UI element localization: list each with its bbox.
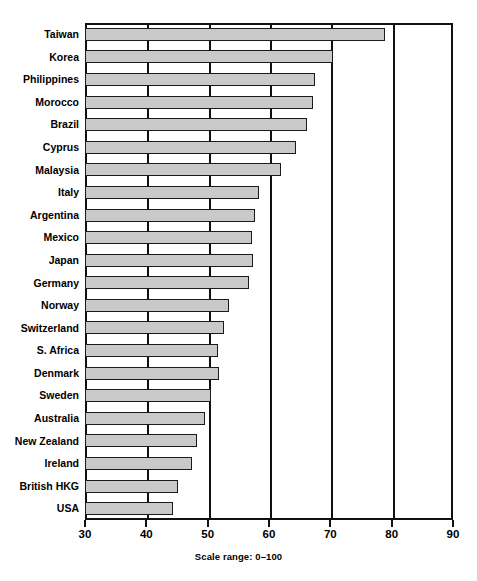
bar-row (85, 68, 453, 91)
bar[interactable] (85, 118, 307, 131)
y-axis-label: Germany (0, 272, 79, 295)
y-axis-label: Malaysia (0, 159, 79, 182)
y-axis-label: Cyprus (0, 136, 79, 159)
bar[interactable] (85, 50, 333, 63)
bar[interactable] (85, 73, 315, 86)
bar-chart: TaiwanKoreaPhilippinesMoroccoBrazilCypru… (0, 0, 477, 581)
bar-row (85, 317, 453, 340)
y-axis-label: Sweden (0, 384, 79, 407)
x-axis-tick-label: 60 (263, 528, 276, 540)
bar-row (85, 497, 453, 520)
y-axis-label: USA (0, 497, 79, 520)
bar-row (85, 407, 453, 430)
y-axis-label: Brazil (0, 113, 79, 136)
x-axis-tick (84, 520, 86, 527)
x-axis-tick-label: 50 (201, 528, 214, 540)
y-axis-label: New Zealand (0, 430, 79, 453)
bar[interactable] (85, 434, 197, 447)
y-axis-label: Korea (0, 46, 79, 69)
bar[interactable] (85, 321, 224, 334)
bar-row (85, 384, 453, 407)
bar-row (85, 339, 453, 362)
bar-row (85, 46, 453, 69)
bar[interactable] (85, 299, 229, 312)
y-axis-label: Norway (0, 294, 79, 317)
x-axis-tick-label: 80 (385, 528, 398, 540)
bar-row (85, 181, 453, 204)
bar-series (85, 23, 453, 520)
y-axis-label: British HKG (0, 475, 79, 498)
x-axis-tick-label: 90 (447, 528, 460, 540)
bar[interactable] (85, 209, 255, 222)
bar-row (85, 204, 453, 227)
bar[interactable] (85, 96, 313, 109)
x-axis-tick-label: 30 (79, 528, 92, 540)
x-axis-tick (329, 520, 331, 527)
bar-row (85, 226, 453, 249)
bar[interactable] (85, 163, 281, 176)
bar-row (85, 91, 453, 114)
bar-row (85, 452, 453, 475)
y-axis-label: Mexico (0, 226, 79, 249)
x-axis-tick (145, 520, 147, 527)
bar[interactable] (85, 502, 173, 515)
y-axis-label: Philippines (0, 68, 79, 91)
y-axis-label: Australia (0, 407, 79, 430)
bar-row (85, 272, 453, 295)
y-axis-label: Denmark (0, 362, 79, 385)
bar[interactable] (85, 367, 219, 380)
x-axis-tick (268, 520, 270, 527)
y-axis-label: Japan (0, 249, 79, 272)
bar[interactable] (85, 480, 178, 493)
y-axis-category-labels: TaiwanKoreaPhilippinesMoroccoBrazilCypru… (0, 23, 79, 520)
bar[interactable] (85, 254, 253, 267)
bar-row (85, 430, 453, 453)
scale-caption: Scale range: 0–100 (0, 551, 477, 562)
bar-row (85, 249, 453, 272)
bar-row (85, 159, 453, 182)
x-axis-tick-label: 70 (324, 528, 337, 540)
y-axis-label: Ireland (0, 452, 79, 475)
bar[interactable] (85, 276, 249, 289)
bar-row (85, 475, 453, 498)
bar[interactable] (85, 344, 218, 357)
bar-row (85, 136, 453, 159)
bar-row (85, 23, 453, 46)
bar[interactable] (85, 186, 259, 199)
y-axis-label: Italy (0, 181, 79, 204)
bar-row (85, 294, 453, 317)
bar[interactable] (85, 141, 296, 154)
bar[interactable] (85, 28, 385, 41)
y-axis-label: Taiwan (0, 23, 79, 46)
y-axis-label: Switzerland (0, 317, 79, 340)
y-axis-label: Argentina (0, 204, 79, 227)
x-axis-tick (207, 520, 209, 527)
bar-row (85, 113, 453, 136)
x-axis-tick (452, 520, 454, 527)
x-axis-tick-label: 40 (140, 528, 153, 540)
y-axis-label: S. Africa (0, 339, 79, 362)
bar[interactable] (85, 231, 252, 244)
bar[interactable] (85, 389, 211, 402)
y-axis-label: Morocco (0, 91, 79, 114)
bar[interactable] (85, 412, 205, 425)
bar-row (85, 362, 453, 385)
x-axis-tick (391, 520, 393, 527)
x-axis: 30405060708090 (85, 520, 453, 546)
bar[interactable] (85, 457, 192, 470)
